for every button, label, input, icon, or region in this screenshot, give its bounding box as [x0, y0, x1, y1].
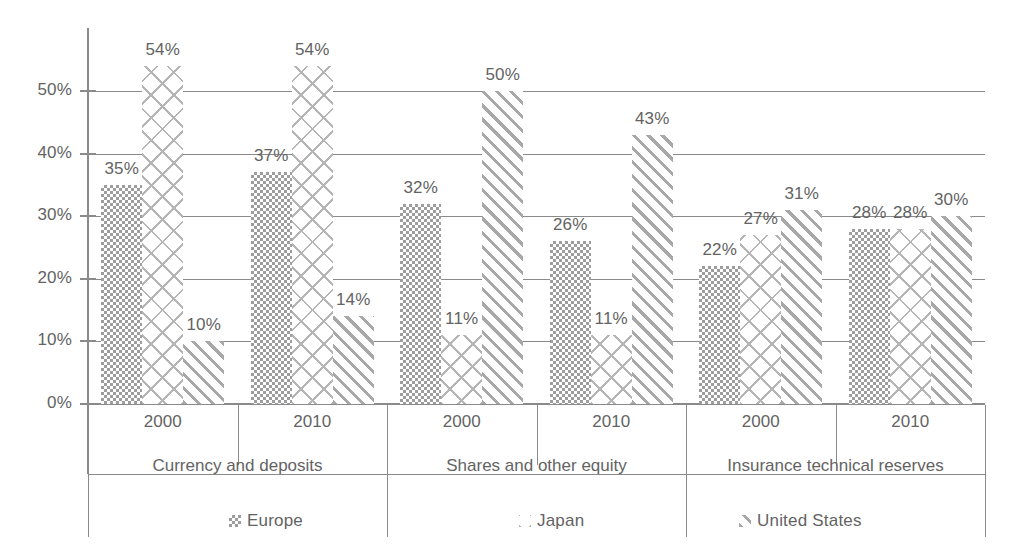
bar-japan[interactable] [740, 235, 781, 404]
bar-japan[interactable] [591, 335, 632, 404]
year-label: 2000 [88, 412, 238, 432]
bar-fill [333, 316, 374, 404]
data-label: 26% [541, 215, 600, 235]
y-axis-tick-label: 40% [0, 143, 72, 163]
bar-japan[interactable] [142, 66, 183, 404]
legend-swatch-icon [519, 515, 531, 527]
bar-united-states[interactable] [482, 91, 523, 404]
legend-swatch-icon [739, 515, 751, 527]
year-label: 2010 [836, 412, 986, 432]
bar-europe[interactable] [251, 172, 292, 404]
bar-fill [183, 341, 224, 404]
bar-fill [699, 266, 740, 404]
data-label: 32% [391, 178, 450, 198]
data-label: 31% [772, 184, 831, 204]
bar-japan[interactable] [441, 335, 482, 404]
data-label: 11% [582, 309, 641, 329]
category-label: Currency and deposits [88, 456, 387, 476]
year-label: 2000 [387, 412, 537, 432]
year-label: 2010 [537, 412, 687, 432]
bar-fill [251, 172, 292, 404]
data-label: 35% [92, 159, 151, 179]
bar-fill [482, 91, 523, 404]
data-label: 37% [242, 146, 301, 166]
legend-item-united-states[interactable]: United States [739, 511, 862, 531]
bar-japan[interactable] [292, 66, 333, 404]
bar-fill [890, 229, 931, 404]
bar-united-states[interactable] [632, 135, 673, 404]
year-label: 2010 [238, 412, 388, 432]
bar-united-states[interactable] [183, 341, 224, 404]
y-axis-tick-label: 30% [0, 205, 72, 225]
chart-legend: EuropeJapanUnited States [0, 505, 1017, 537]
bar-fill [441, 335, 482, 404]
legend-label: United States [757, 511, 862, 531]
data-label: 50% [473, 65, 532, 85]
data-label: 14% [324, 290, 383, 310]
bar-europe[interactable] [849, 229, 890, 404]
bar-united-states[interactable] [931, 216, 972, 404]
data-label: 22% [690, 240, 749, 260]
bar-united-states[interactable] [333, 316, 374, 404]
bar-fill [849, 229, 890, 404]
data-label: 27% [731, 209, 790, 229]
bar-fill [781, 210, 822, 404]
data-label: 54% [133, 40, 192, 60]
y-axis-tick-label: 20% [0, 268, 72, 288]
legend-item-japan[interactable]: Japan [519, 511, 584, 531]
y-axis-tick-label: 50% [0, 80, 72, 100]
bar-fill [740, 235, 781, 404]
bar-fill [591, 335, 632, 404]
category-label: Shares and other equity [387, 456, 686, 476]
bar-chart: 50%40%30%20%10%0% 35%54%10%37%54%14%32%1… [0, 0, 1017, 544]
data-label: 54% [283, 40, 342, 60]
legend-item-europe[interactable]: Europe [229, 511, 303, 531]
bar-japan[interactable] [890, 229, 931, 404]
bar-fill [292, 66, 333, 404]
legend-label: Europe [247, 511, 303, 531]
category-label: Insurance technical reserves [686, 456, 985, 476]
bar-europe[interactable] [699, 266, 740, 404]
bar-fill [101, 185, 142, 404]
y-axis-tick-label: 0% [0, 393, 72, 413]
bar-united-states[interactable] [781, 210, 822, 404]
legend-label: Japan [537, 511, 584, 531]
bar-fill [931, 216, 972, 404]
bar-fill [142, 66, 183, 404]
data-label: 43% [623, 109, 682, 129]
y-axis-tick-label: 10% [0, 330, 72, 350]
legend-swatch-icon [229, 515, 241, 527]
data-label: 10% [174, 315, 233, 335]
data-label: 30% [922, 190, 981, 210]
year-label: 2000 [686, 412, 836, 432]
bar-fill [632, 135, 673, 404]
bar-fill [400, 204, 441, 404]
data-label: 11% [432, 309, 491, 329]
bar-europe[interactable] [101, 185, 142, 404]
bar-europe[interactable] [400, 204, 441, 404]
